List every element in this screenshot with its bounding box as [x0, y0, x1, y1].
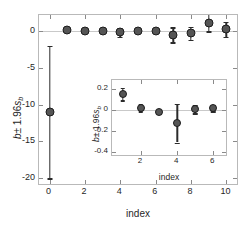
y-tick	[39, 68, 43, 69]
error-bar-cap-upper	[171, 27, 176, 28]
y-tick-label: -5	[13, 62, 35, 72]
data-point-marker	[63, 25, 72, 34]
main-y-title-se-subscript: b	[16, 97, 25, 101]
x-tick-label: 4	[117, 186, 122, 196]
data-point-marker	[204, 19, 213, 28]
inset-x-axis-title: index	[159, 172, 179, 182]
x-tick	[213, 151, 214, 155]
x-tick-top	[85, 15, 86, 19]
y-tick-label: 0.2	[90, 83, 108, 93]
x-tick	[85, 180, 86, 184]
x-tick-top	[50, 15, 51, 19]
error-bar-cap-upper	[175, 104, 180, 105]
y-tick	[39, 178, 43, 179]
data-point-marker	[45, 107, 54, 116]
y-tick-right	[222, 152, 226, 153]
x-tick-label: 10	[220, 186, 230, 196]
x-tick-label: 2	[81, 186, 86, 196]
x-tick	[177, 151, 178, 155]
error-bar-cap-upper	[224, 22, 229, 23]
x-tick-label: 0	[46, 186, 51, 196]
data-point-marker	[116, 28, 125, 37]
y-tick-label: 0	[13, 25, 35, 35]
x-tick	[226, 180, 227, 184]
inset-y-title-se-subscript: b	[95, 106, 102, 109]
x-tick	[50, 180, 51, 184]
y-tick	[112, 89, 116, 90]
x-tick-top	[120, 15, 121, 19]
inset-y-title-se: s	[91, 109, 101, 113]
x-tick-label: 6	[210, 156, 214, 166]
y-tick	[39, 31, 43, 32]
data-point-marker	[137, 104, 145, 112]
inset-y-title-pm: ± 1.96	[91, 114, 101, 138]
data-point-marker	[209, 104, 217, 112]
y-tick-label: -20	[13, 172, 35, 182]
data-point-marker	[191, 105, 199, 113]
x-tick	[156, 180, 157, 184]
error-bar-cap-lower	[47, 178, 52, 179]
y-tick	[112, 110, 116, 111]
error-bar-cap-lower	[224, 37, 229, 38]
data-point-marker	[173, 119, 181, 127]
x-tick-label: 6	[152, 186, 157, 196]
data-point-marker	[119, 90, 127, 98]
data-point-marker	[151, 27, 160, 36]
x-tick-top	[141, 80, 142, 84]
main-y-title-symbol: b	[12, 133, 23, 139]
error-bar-cap-lower	[189, 40, 194, 41]
x-tick-top	[156, 15, 157, 19]
y-tick-right	[233, 68, 237, 69]
y-tick-right	[233, 178, 237, 179]
y-tick	[39, 141, 43, 142]
y-tick	[39, 105, 43, 106]
x-tick-top	[177, 80, 178, 84]
error-bar-cap-lower	[171, 42, 176, 43]
x-tick-top	[213, 80, 214, 84]
error-bar-cap-lower	[118, 37, 123, 38]
error-bar-cap-lower	[193, 113, 198, 114]
inset-plot-axes	[111, 79, 227, 156]
data-point-marker	[155, 108, 163, 116]
x-tick-label: 4	[174, 156, 178, 166]
y-tick-right	[222, 110, 226, 111]
y-tick-right	[222, 89, 226, 90]
y-tick-right	[222, 131, 226, 132]
main-y-title-se: s	[12, 101, 23, 106]
data-point-marker	[187, 29, 196, 38]
error-bar-cap-lower	[206, 31, 211, 32]
error-bar-cap-lower	[175, 143, 180, 144]
x-tick	[141, 151, 142, 155]
x-tick	[120, 180, 121, 184]
data-point-marker	[222, 25, 231, 34]
error-bar-cap-upper	[47, 46, 52, 47]
x-tick	[191, 180, 192, 184]
data-point-marker	[169, 30, 178, 39]
y-tick-right	[233, 141, 237, 142]
y-tick	[112, 152, 116, 153]
x-tick-top	[191, 15, 192, 19]
inset-zero-reference-line	[112, 110, 226, 111]
y-tick	[112, 131, 116, 132]
y-tick-right	[233, 31, 237, 32]
error-bar-cap-upper	[121, 88, 126, 89]
data-point-marker	[80, 26, 89, 35]
figure-canvas: 0246810 0-5-10-15-20 index b± 1.96sb 246…	[0, 0, 250, 226]
main-y-title-pm: ± 1.96	[12, 106, 23, 134]
inset-y-axis-title: b± 1.96sb	[91, 106, 102, 142]
data-point-marker	[98, 27, 107, 36]
x-tick-top	[226, 15, 227, 19]
inset-y-title-symbol: b	[91, 137, 101, 142]
main-y-axis-title: b± 1.96sb	[12, 97, 25, 139]
data-point-marker	[134, 27, 143, 36]
x-tick-label: 8	[188, 186, 193, 196]
main-x-axis-title: index	[126, 208, 150, 219]
y-tick-label: -0.4	[90, 146, 108, 156]
y-tick-right	[233, 105, 237, 106]
x-tick-label: 2	[138, 156, 142, 166]
error-bar-cap-lower	[121, 100, 126, 101]
